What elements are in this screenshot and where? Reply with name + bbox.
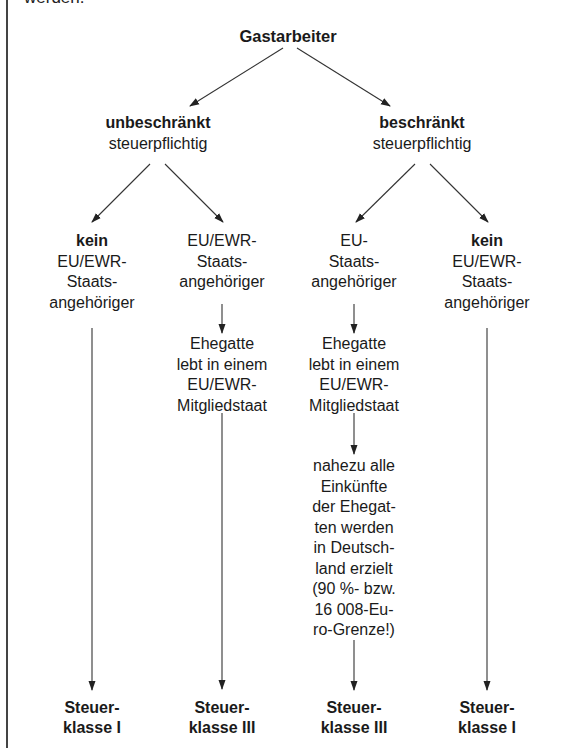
nationality-line: angehöriger [49,293,134,314]
result-node-col1: Steuer- klasse I [63,698,121,738]
condition-line: ten werden [312,518,396,539]
result-line: klasse I [458,718,516,738]
nationality-line: Staats- [444,272,529,293]
branch-node-beschraenkt: beschränkt steuerpflichtig [373,113,472,154]
result-line: klasse III [189,718,256,738]
branch-node-unbeschraenkt: unbeschränkt steuerpflichtig [106,113,211,154]
condition-line: nahezu alle [312,456,396,477]
condition-line: EU/EWR- [177,375,268,396]
nationality-line: EU- [311,231,396,252]
result-line: Steuer- [189,698,256,718]
arrow-beschraenkt-to-col3 [356,164,415,222]
result-line: klasse I [63,718,121,738]
condition-line: lebt in einem [309,355,400,376]
nationality-node-col1: kein EU/EWR- Staats- angehöriger [49,231,134,313]
result-line: klasse III [321,718,388,738]
nationality-node-col4: kein EU/EWR- Staats- angehöriger [444,231,529,313]
nationality-line: Staats- [49,272,134,293]
arrow-unbeschraenkt-to-col1 [92,164,150,222]
nationality-line: Staats- [179,252,264,273]
nationality-line: EU/EWR- [444,252,529,273]
condition-line: der Ehegat- [312,497,396,518]
condition-line: 16 008-Eu- [312,600,396,621]
branch-subtitle: steuerpflichtig [106,134,211,155]
root-node-gastarbeiter: Gastarbeiter [239,26,336,47]
income-condition-node-col3: nahezu alle Einkünfte der Ehegat- ten we… [312,456,396,641]
nationality-node-col3: EU- Staats- angehöriger [311,231,396,293]
arrow-root-to-beschraenkt [297,48,390,106]
result-node-col2: Steuer- klasse III [189,698,256,738]
condition-node-col3: Ehegatte lebt in einem EU/EWR- Mitglieds… [309,334,400,416]
arrow-unbeschraenkt-to-col2 [165,164,223,222]
branch-subtitle: steuerpflichtig [373,134,472,155]
nationality-line: EU/EWR- [179,231,264,252]
branch-title: unbeschränkt [106,113,211,134]
result-line: Steuer- [63,698,121,718]
nationality-bold: kein [49,231,134,252]
condition-line: Mitgliedstaat [177,396,268,417]
condition-line: Mitgliedstaat [309,396,400,417]
result-line: Steuer- [321,698,388,718]
condition-line: EU/EWR- [309,375,400,396]
condition-line: Ehegatte [177,334,268,355]
arrow-root-to-unbeschraenkt [190,48,283,106]
branch-title: beschränkt [373,113,472,134]
nationality-line: Staats- [311,252,396,273]
arrow-beschraenkt-to-col4 [430,164,488,222]
condition-line: in Deutsch- [312,538,396,559]
condition-line: Ehegatte [309,334,400,355]
condition-line: lebt in einem [177,355,268,376]
nationality-line: EU/EWR- [49,252,134,273]
condition-line: land erzielt [312,559,396,580]
result-node-col4: Steuer- klasse I [458,698,516,738]
condition-node-col2: Ehegatte lebt in einem EU/EWR- Mitglieds… [177,334,268,416]
nationality-line: angehöriger [444,293,529,314]
condition-line: ro-Grenze!) [312,620,396,641]
nationality-line: angehöriger [311,272,396,293]
condition-line: (90 %- bzw. [312,579,396,600]
condition-line: Einkünfte [312,477,396,498]
flowchart-connectors [0,0,561,748]
nationality-bold: kein [444,231,529,252]
nationality-node-col2: EU/EWR- Staats- angehöriger [179,231,264,293]
result-line: Steuer- [458,698,516,718]
result-node-col3: Steuer- klasse III [321,698,388,738]
nationality-line: angehöriger [179,272,264,293]
